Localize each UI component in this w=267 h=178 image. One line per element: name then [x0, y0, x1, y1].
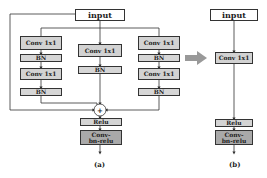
- caption-b: (b): [229, 160, 241, 169]
- relu-b: Relu: [215, 119, 253, 127]
- input-node-a: input: [75, 9, 125, 21]
- caption-a: (a): [94, 160, 105, 169]
- right-conv-1: Conv 1x1: [138, 36, 180, 50]
- left-conv-2: Conv 1x1: [20, 68, 62, 80]
- plus-icon: +: [97, 106, 103, 115]
- middle-conv: Conv 1x1: [78, 44, 122, 57]
- input-node-b: input: [210, 9, 258, 21]
- left-bn-1: BN: [20, 54, 62, 62]
- left-conv-1: Conv 1x1: [20, 36, 62, 50]
- right-arrow-icon: [185, 51, 207, 65]
- conv-b: Conv 1x1: [215, 52, 253, 64]
- left-bn-2: BN: [20, 88, 62, 96]
- right-conv-2: Conv 1x1: [138, 68, 180, 80]
- right-bn-1: BN: [138, 54, 180, 62]
- right-bn-2: BN: [138, 88, 180, 96]
- conv-bn-relu-a: Conv-bn-relu: [80, 130, 122, 145]
- middle-bn: BN: [78, 66, 122, 74]
- relu-a: Relu: [80, 118, 122, 126]
- conv-bn-relu-b: Conv-bn-relu: [215, 130, 253, 145]
